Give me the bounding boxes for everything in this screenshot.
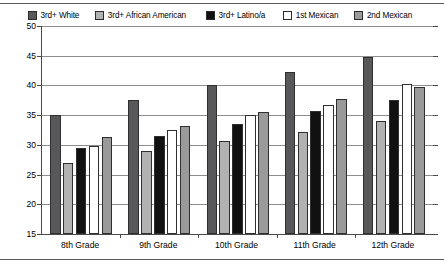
- y-axis-tick-right: [433, 56, 438, 57]
- x-axis-label-4: 12th Grade: [354, 238, 432, 252]
- bar[interactable]: [141, 151, 152, 234]
- bar[interactable]: [336, 99, 347, 234]
- legend-label: 1st Mexican: [296, 11, 339, 20]
- legend-swatch-icon: [283, 11, 292, 20]
- top-divider-rule: [0, 3, 444, 4]
- bar[interactable]: [376, 121, 387, 234]
- bar[interactable]: [232, 124, 243, 234]
- y-axis-tick-label: 50: [26, 22, 36, 31]
- bottom-divider-rule: [0, 259, 444, 260]
- bar[interactable]: [245, 115, 256, 234]
- y-axis-tick-right: [433, 115, 438, 116]
- legend-swatch-icon: [206, 11, 215, 20]
- bar[interactable]: [389, 100, 400, 234]
- plot-area: [41, 26, 433, 235]
- legend-label: 3rd+ White: [41, 11, 80, 20]
- bar[interactable]: [219, 141, 230, 234]
- chart-legend: 3rd+ White3rd+ African American3rd+ Lati…: [28, 9, 440, 21]
- y-axis-tick-right: [433, 26, 438, 27]
- bar[interactable]: [76, 148, 87, 234]
- y-axis-tick-right: [433, 145, 438, 146]
- x-axis-label-2: 10th Grade: [197, 238, 275, 252]
- bar[interactable]: [323, 105, 334, 234]
- bar-group-1: [120, 26, 198, 234]
- legend-label: 3rd+ Latino/a: [219, 11, 266, 20]
- y-axis-tick-label: 45: [26, 52, 36, 61]
- x-axis-label-3: 11th Grade: [276, 238, 354, 252]
- legend-item-1[interactable]: 3rd+ African American: [95, 11, 186, 20]
- legend-item-0[interactable]: 3rd+ White: [28, 11, 79, 20]
- bar[interactable]: [102, 137, 113, 234]
- bar[interactable]: [402, 84, 413, 234]
- bar[interactable]: [207, 85, 218, 234]
- bar[interactable]: [180, 126, 191, 234]
- legend-swatch-icon: [354, 11, 363, 20]
- bar[interactable]: [363, 57, 374, 234]
- x-axis-label-0: 8th Grade: [41, 238, 119, 252]
- bar[interactable]: [128, 100, 139, 234]
- y-axis-tick-label: 15: [26, 230, 36, 239]
- y-axis-tick-right: [433, 175, 438, 176]
- legend-item-4[interactable]: 2nd Mexican: [354, 11, 412, 20]
- bar[interactable]: [258, 112, 269, 234]
- y-axis-tick: [37, 234, 42, 235]
- y-axis-tick-right: [433, 204, 438, 205]
- y-axis-tick-labels: 1520253035404550: [17, 26, 36, 235]
- bar-group-4: [355, 26, 433, 234]
- bar[interactable]: [310, 111, 321, 234]
- y-axis-tick-right: [433, 85, 438, 86]
- bar[interactable]: [167, 130, 178, 234]
- bar[interactable]: [298, 132, 309, 234]
- bar[interactable]: [89, 146, 100, 234]
- bar[interactable]: [63, 163, 74, 234]
- legend-item-2[interactable]: 3rd+ Latino/a: [206, 11, 265, 20]
- bar[interactable]: [50, 115, 61, 234]
- y-axis-tick-label: 30: [26, 141, 36, 150]
- bar[interactable]: [154, 136, 165, 234]
- legend-swatch-icon: [95, 11, 104, 20]
- x-axis-tick-labels: 8th Grade9th Grade10th Grade11th Grade12…: [41, 238, 432, 252]
- legend-item-3[interactable]: 1st Mexican: [283, 11, 338, 20]
- x-axis-label-1: 9th Grade: [119, 238, 197, 252]
- bar-group-3: [277, 26, 355, 234]
- y-axis-tick-label: 20: [26, 200, 36, 209]
- bar-group-2: [198, 26, 276, 234]
- y-axis-tick-label: 40: [26, 81, 36, 90]
- bar[interactable]: [414, 87, 425, 234]
- bar-groups: [42, 26, 433, 234]
- legend-label: 2nd Mexican: [367, 11, 412, 20]
- y-axis-tick-label: 35: [26, 111, 36, 120]
- legend-label: 3rd+ African American: [108, 11, 186, 20]
- legend-swatch-icon: [28, 11, 37, 20]
- bar-group-0: [42, 26, 120, 234]
- y-axis-tick-right: [433, 234, 438, 235]
- bar[interactable]: [285, 72, 296, 234]
- y-axis-tick-label: 25: [26, 171, 36, 180]
